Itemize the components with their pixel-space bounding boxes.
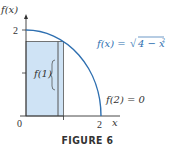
f1-label: f(1): [33, 68, 52, 79]
figure-6: f(x) 2 0 2 x f(1) f(2) = 0 f(x) = √ 4 − …: [0, 0, 175, 163]
x-axis-label: x: [112, 117, 118, 128]
y-tick-label-2: 2: [13, 25, 18, 36]
function-label-radicand: 4 − x: [137, 38, 165, 49]
function-label: f(x) = √ 4 − x 2: [96, 37, 165, 49]
function-label-exponent: 2: [162, 37, 165, 43]
figure-caption: FIGURE 6: [13, 134, 162, 147]
x-tick-label-2: 2: [97, 119, 102, 130]
function-label-prefix: f(x) =: [96, 38, 126, 49]
y-axis-arrow-icon: [24, 14, 28, 19]
f2-label: f(2) = 0: [105, 94, 146, 105]
origin-label: 0: [17, 118, 22, 129]
y-axis-label: f(x): [0, 4, 18, 15]
sqrt-icon: √: [130, 37, 137, 49]
